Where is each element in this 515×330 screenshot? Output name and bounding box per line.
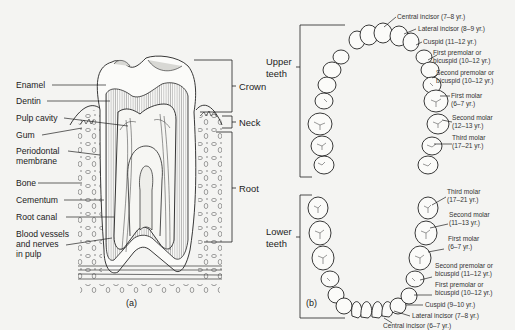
label-upper-first-premolar-line1: First premolar or xyxy=(433,49,491,57)
label-upper-first-molar: First molar (6–7 yr.) xyxy=(451,92,482,108)
lower-arch-grooves xyxy=(314,205,431,281)
label-lower-first-premolar: First premolar or bicuspid (10–12 yr.) xyxy=(435,281,493,297)
label-blood-line3: in pulp xyxy=(16,249,69,259)
label-blood-line2: and nerves xyxy=(16,239,69,249)
label-upper-second-premolar-line1: Second premolar or xyxy=(436,69,494,77)
label-lower-first-molar: First molar (6–7 yr.) xyxy=(448,235,479,251)
label-upper-central-incisor: Central incisor (7–8 yr.) xyxy=(397,13,465,21)
label-lower-second-premolar-line2: bicuspid (11–12 yr.) xyxy=(435,270,493,278)
label-gum: Gum xyxy=(16,130,35,140)
label-lower-second-molar-line1: Second molar xyxy=(449,211,490,219)
label-crown: Crown xyxy=(239,81,266,92)
label-upper-second-molar-line2: (12–13 yr.) xyxy=(452,122,493,130)
tooth-cross-section xyxy=(70,56,222,296)
label-upper-lateral-incisor: Lateral incisor (8–9 yr.) xyxy=(418,25,485,33)
label-upper-second-premolar: Second premolar or bicuspid (10–12 yr.) xyxy=(436,69,494,85)
label-blood-line1: Blood vessels xyxy=(16,229,69,239)
label-upper-first-molar-line2: (6–7 yr.) xyxy=(451,100,482,108)
label-lower-cuspid: Cuspid (9–10 yr.) xyxy=(425,301,475,309)
label-upper-line2: teeth xyxy=(266,68,292,80)
label-lower-first-premolar-line1: First premolar or xyxy=(435,281,493,289)
label-lower-first-molar-line2: (6–7 yr.) xyxy=(448,243,479,251)
label-lower-lateral-incisor: Lateral incisor (7–8 yr.) xyxy=(412,312,479,320)
label-periodontal-membrane: Periodontal membrane xyxy=(16,146,59,166)
label-root: Root xyxy=(239,183,259,194)
label-lower-first-molar-line1: First molar xyxy=(448,235,479,243)
label-dentin: Dentin xyxy=(16,96,41,106)
label-upper-cuspid: Cuspid (11–12 yr.) xyxy=(423,38,476,46)
label-neck: Neck xyxy=(239,117,260,128)
label-cementum: Cementum xyxy=(16,195,58,205)
label-upper-second-premolar-line2: bicuspid (10–12 yr.) xyxy=(436,77,494,85)
label-bone: Bone xyxy=(16,178,36,188)
label-lower-third-molar: Third molar (17–21 yr.) xyxy=(447,188,480,204)
label-upper-first-molar-line1: First molar xyxy=(451,92,482,100)
label-lower-second-molar-line2: (11–13 yr.) xyxy=(449,219,490,227)
label-upper-third-molar: Third molar (17–21 yr.) xyxy=(452,134,485,150)
caption-b: (b) xyxy=(306,298,317,308)
label-lower-line1: Lower xyxy=(266,226,292,238)
label-lower-third-molar-line2: (17–21 yr.) xyxy=(447,196,480,204)
label-upper-third-molar-line2: (17–21 yr.) xyxy=(452,142,485,150)
label-upper-line1: Upper xyxy=(266,56,292,68)
label-upper-first-premolar: First premolar or bicuspid (10–12 yr.) xyxy=(433,49,491,65)
label-periodontal-line1: Periodontal xyxy=(16,146,59,156)
label-upper-second-molar: Second molar (12–13 yr.) xyxy=(452,114,493,130)
label-upper-first-premolar-line2: bicuspid (10–12 yr.) xyxy=(433,57,491,65)
caption-a: (a) xyxy=(126,298,137,308)
label-lower-line2: teeth xyxy=(266,238,292,250)
label-lower-third-molar-line1: Third molar xyxy=(447,188,480,196)
label-enamel: Enamel xyxy=(16,80,45,90)
label-blood-vessels-nerves: Blood vessels and nerves in pulp xyxy=(16,229,69,259)
upper-arch-grooves xyxy=(314,83,442,166)
label-lower-second-premolar: Second premolar or bicuspid (11–12 yr.) xyxy=(435,262,493,278)
label-root-canal: Root canal xyxy=(16,212,57,222)
label-upper-second-molar-line1: Second molar xyxy=(452,114,493,122)
label-periodontal-line2: membrane xyxy=(16,156,59,166)
label-lower-first-premolar-line2: bicuspid (10–12 yr.) xyxy=(435,289,493,297)
label-pulp-cavity: Pulp cavity xyxy=(16,113,58,123)
label-lower-teeth: Lower teeth xyxy=(266,226,292,250)
label-upper-third-molar-line1: Third molar xyxy=(452,134,485,142)
label-upper-teeth: Upper teeth xyxy=(266,56,292,80)
label-lower-second-premolar-line1: Second premolar or xyxy=(435,262,493,270)
label-lower-second-molar: Second molar (11–13 yr.) xyxy=(449,211,490,227)
label-lower-central-incisor: Central incisor (6–7 yr.) xyxy=(383,322,451,330)
